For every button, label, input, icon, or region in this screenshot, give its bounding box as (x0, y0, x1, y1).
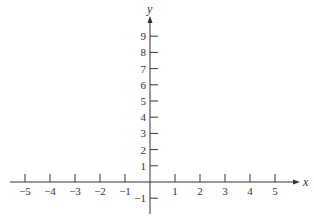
y-tick-label: −1 (134, 192, 146, 204)
y-tick-label: 7 (141, 63, 147, 75)
y-tick-label: 3 (141, 127, 147, 139)
y-tick-label: 5 (141, 95, 147, 107)
x-tick-label: 4 (247, 185, 253, 197)
x-tick-label: 1 (172, 185, 178, 197)
y-axis-label: y (146, 2, 153, 16)
x-tick-label: 3 (222, 185, 228, 197)
x-tick-label: −4 (44, 185, 56, 197)
y-tick-label: 9 (141, 30, 147, 42)
y-axis-ticks: −1123456789 (134, 30, 158, 204)
y-tick-label: 2 (141, 144, 147, 156)
y-axis (148, 16, 153, 214)
x-tick-label: −5 (19, 185, 31, 197)
x-axis-arrow-icon (293, 180, 300, 185)
x-tick-label: 2 (197, 185, 203, 197)
y-axis-arrow-icon (148, 16, 153, 23)
coordinate-plane: −5−4−3−2−112345 −1123456789 x y (0, 0, 314, 218)
x-tick-label: −3 (69, 185, 81, 197)
y-tick-label: 6 (141, 79, 147, 91)
y-tick-label: 1 (141, 160, 147, 172)
x-axis-label: x (302, 175, 309, 189)
x-axis (10, 180, 300, 185)
x-axis-ticks: −5−4−3−2−112345 (19, 174, 278, 197)
x-tick-label: −1 (119, 185, 131, 197)
y-tick-label: 8 (141, 46, 147, 58)
y-tick-label: 4 (141, 111, 147, 123)
x-tick-label: 5 (272, 185, 278, 197)
x-tick-label: −2 (94, 185, 106, 197)
